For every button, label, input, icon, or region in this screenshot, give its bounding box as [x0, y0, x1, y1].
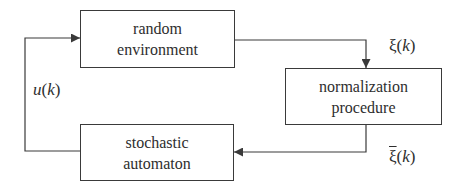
block-label-line1: stochastic [125, 132, 188, 153]
block-label-line1: random [133, 18, 182, 39]
random-environment-block: random environment [80, 10, 235, 68]
signal-u-label: u(k) [33, 80, 60, 100]
signal-xi-label: ξ(k) [389, 36, 415, 56]
wire-normalization-to-automaton [234, 124, 366, 152]
block-label-line1: normalization [319, 76, 408, 97]
wire-env-to-normalization [234, 40, 366, 68]
signal-xi-bar-label: ξ(k) [389, 147, 415, 167]
stochastic-automaton-block: stochastic automaton [80, 124, 234, 181]
block-label-line2: environment [117, 39, 198, 60]
block-label-line2: procedure [332, 97, 396, 118]
normalization-procedure-block: normalization procedure [285, 68, 442, 125]
block-label-line2: automaton [123, 153, 191, 174]
